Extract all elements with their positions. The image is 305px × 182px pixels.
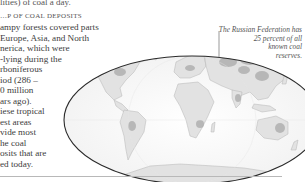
horizontal-rule (0, 176, 282, 177)
map-callout: The Russian Federation has 25 percent of… (206, 26, 302, 60)
callout-line: reserves. (206, 52, 302, 61)
